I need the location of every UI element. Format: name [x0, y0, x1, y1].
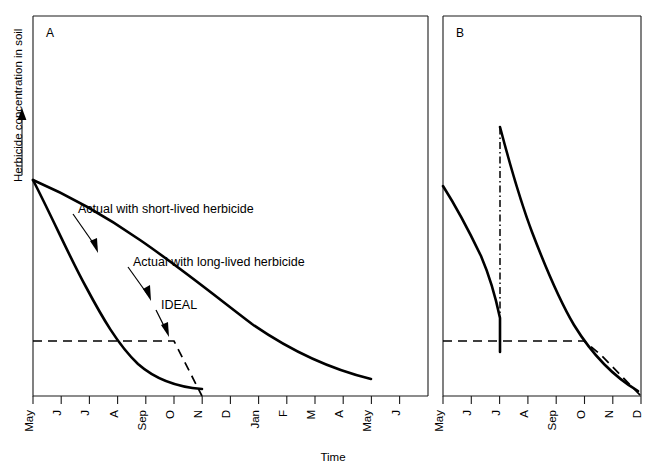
figure-canvas: Herbicide concentration in soil A: [0, 0, 656, 471]
panel-a-letter: A: [46, 26, 54, 40]
panel-b: B May J J A Sep O N D: [433, 16, 643, 432]
panel-b-ideal-curve: [443, 341, 641, 396]
panel-a-annotation-long-lived: Actual with long-lived herbicide: [128, 255, 305, 301]
panel-b-tick-labels: May J J A Sep O N D: [433, 410, 643, 432]
panel-a-tick-label: May: [361, 410, 373, 432]
panel-a-tick-label: M: [305, 410, 317, 420]
y-axis-label: Herbicide concentration in soil: [12, 29, 24, 182]
panel-a-tick-label: J: [79, 410, 91, 416]
panel-b-first-decay-curve: [443, 186, 500, 352]
y-axis-label-group: Herbicide concentration in soil: [12, 29, 26, 182]
panel-a-tick-label: N: [192, 410, 204, 418]
panel-b-tick-label: A: [518, 410, 530, 418]
panel-b-tick-label: May: [433, 410, 445, 432]
panel-a-tick-label: J: [390, 410, 402, 416]
panel-a-tick-label: D: [220, 410, 232, 418]
panel-a-tick-labels: May J J A Sep O N D Jan F M A May J: [23, 410, 402, 432]
panel-b-tick-label: O: [575, 410, 587, 419]
panel-b-second-decay-curve: [500, 127, 638, 391]
panel-b-tick-label: Sep: [546, 410, 558, 430]
panel-a-tick-label: J: [51, 410, 63, 416]
panel-b-tick-label: J: [461, 410, 473, 416]
panel-a-ideal-curve: [33, 341, 202, 396]
panel-a-tick-label: A: [108, 410, 120, 418]
panel-a-tick-label: Jan: [249, 410, 261, 429]
panel-b-letter: B: [456, 26, 464, 40]
panel-a-tick-label: A: [333, 410, 345, 418]
panel-b-ticks: [443, 396, 641, 404]
panel-a: A May J J: [23, 16, 428, 432]
panel-a-tick-label: F: [277, 410, 289, 417]
panel-b-tick-label: J: [490, 410, 502, 416]
panel-a-annotation-ideal: IDEAL: [156, 298, 197, 337]
panel-a-annotation-short-lived-label: Actual with short-lived herbicide: [78, 202, 254, 216]
panel-a-ticks: [33, 396, 400, 404]
panel-b-frame: [443, 16, 641, 396]
panel-b-tick-label: N: [603, 410, 615, 418]
herbicide-concentration-figure: Herbicide concentration in soil A: [0, 0, 656, 471]
panel-a-annotation-short-lived: Actual with short-lived herbicide: [73, 202, 254, 253]
panel-a-annotation-ideal-label: IDEAL: [161, 298, 197, 312]
panel-a-tick-label: O: [164, 410, 176, 419]
panel-a-tick-label: May: [23, 410, 35, 432]
panel-a-annotation-long-lived-label: Actual with long-lived herbicide: [133, 255, 305, 269]
x-axis-label: Time: [320, 451, 345, 463]
panel-b-tick-label: D: [631, 410, 643, 418]
panel-a-tick-label: Sep: [136, 410, 148, 430]
